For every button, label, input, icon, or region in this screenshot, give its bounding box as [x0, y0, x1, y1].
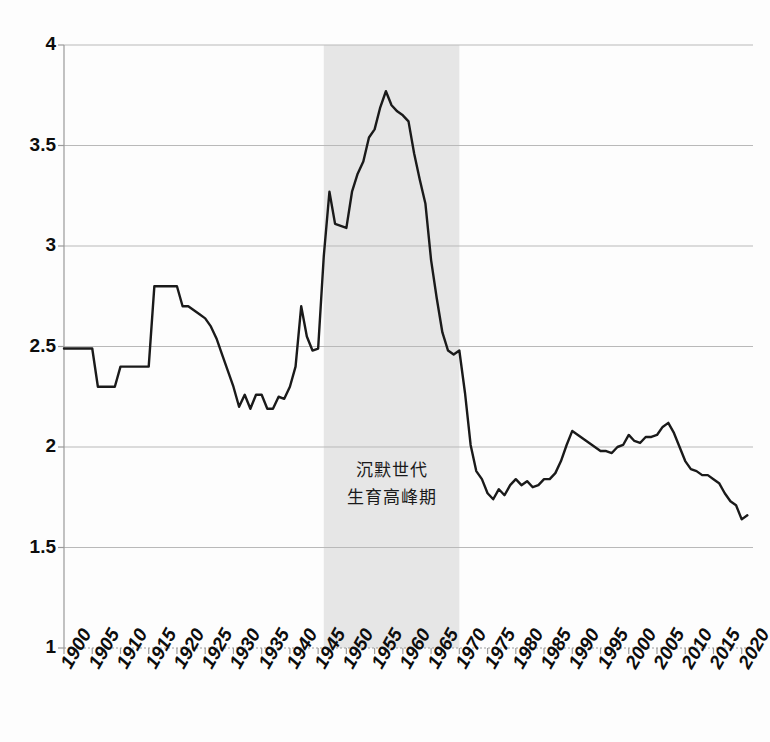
band-annotation-line-2: 生育高峰期: [312, 484, 472, 510]
chart-plot-area: [0, 0, 770, 742]
y-tick-marks-group: [58, 45, 64, 648]
band-annotation-label: 沉默世代 生育高峰期: [312, 457, 472, 510]
y-tick-label: 2.5: [4, 336, 56, 355]
y-tick-label: 3.5: [4, 135, 56, 154]
y-tick-label: 1: [4, 637, 56, 656]
y-tick-label: 3: [4, 235, 56, 254]
fertility-rate-chart: 11.522.533.54 19001905191019151920192519…: [0, 0, 770, 742]
y-tick-label: 1.5: [4, 537, 56, 556]
band-annotation-line-1: 沉默世代: [312, 457, 472, 483]
y-tick-label: 2: [4, 436, 56, 455]
y-tick-label: 4: [4, 34, 56, 53]
y-axis-tick-labels: 11.522.533.54: [0, 0, 56, 700]
x-tick-marks-group: [64, 648, 742, 654]
